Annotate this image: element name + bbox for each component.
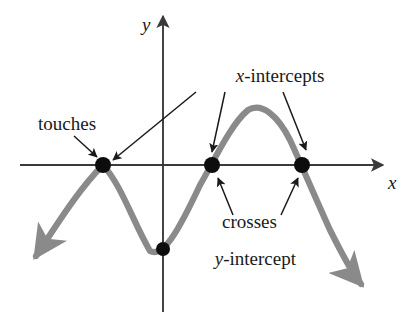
polynomial-graph-figure: x y touches x-intercepts bbox=[0, 0, 401, 326]
graph-canvas: x y touches x-intercepts bbox=[0, 0, 401, 326]
y-axis-label: y bbox=[140, 14, 151, 35]
x-intercept-cross-right-dot bbox=[294, 157, 310, 173]
touches-arrow bbox=[74, 136, 97, 157]
x-intercept-cross-middle-dot bbox=[204, 157, 220, 173]
crosses-label: crosses bbox=[222, 211, 277, 232]
x-intercepts-arrow-left bbox=[113, 92, 196, 160]
touches-label: touches bbox=[38, 113, 96, 134]
crosses-arrow-right bbox=[281, 178, 298, 215]
y-intercept-label-text: -intercept bbox=[223, 248, 297, 269]
x-intercepts-label: x-intercepts bbox=[193, 65, 358, 86]
crosses-arrow-middle bbox=[218, 178, 233, 215]
x-intercepts-label-text: -intercepts bbox=[244, 65, 324, 86]
x-intercepts-arrow-right bbox=[283, 92, 306, 150]
x-intercept-touch-left-dot bbox=[95, 157, 111, 173]
y-intercept-label: y-intercept bbox=[172, 248, 329, 269]
y-intercept-dot bbox=[156, 242, 170, 256]
y-intercept-label-italic: y bbox=[213, 248, 224, 269]
x-axis-label: x bbox=[387, 172, 397, 193]
